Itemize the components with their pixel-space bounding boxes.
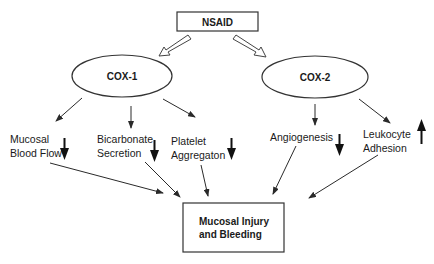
cox1-node: COX-1 <box>72 55 172 97</box>
arrow-cox2-to-leukocyte <box>359 99 390 123</box>
effect-bicarbonate-secretion: Bicarbonate Secretion <box>97 133 159 162</box>
outcome-node: Mucosal Injury and Bleeding <box>183 203 284 252</box>
up-arrow-icon <box>417 119 426 144</box>
effect-label-line1: Bicarbonate <box>97 133 153 145</box>
outcome-box <box>183 203 284 252</box>
effect-label-line2: Blood Flow <box>10 147 62 159</box>
outcome-label-line2: and Bleeding <box>199 229 262 240</box>
down-arrow-icon <box>335 134 344 156</box>
hollow-arrow-left-icon <box>159 35 191 56</box>
arrow-platelet-to-outcome <box>201 165 208 196</box>
effect-label-line1: Angiogenesis <box>270 131 333 143</box>
down-arrow-icon <box>227 138 236 160</box>
cox2-node: COX-2 <box>262 56 368 98</box>
nsaid-label: NSAID <box>202 17 233 28</box>
nsaid-mechanism-diagram: NSAID COX-1 COX-2 Mucosal Blood Flow Bic… <box>0 0 434 264</box>
nsaid-node: NSAID <box>177 12 258 31</box>
cox1-label: COX-1 <box>107 71 138 82</box>
cox2-label: COX-2 <box>300 72 331 83</box>
effect-platelet-aggregation: Platelet Aggregaton <box>171 135 236 161</box>
effect-label-line1: Platelet <box>171 135 206 147</box>
arrow-leukocyte-to-outcome <box>309 155 378 198</box>
effect-label-line2: Adhesion <box>363 142 407 154</box>
arrow-blood-flow-to-outcome <box>50 163 163 193</box>
effect-mucosal-blood-flow: Mucosal Blood Flow <box>10 133 69 160</box>
arrow-cox1-to-platelet <box>163 99 195 117</box>
arrow-angiogenesis-to-outcome <box>273 146 296 194</box>
hollow-arrow-to-cox2 <box>233 35 266 57</box>
arrow-bicarbonate-to-outcome <box>145 162 180 197</box>
effect-angiogenesis: Angiogenesis <box>270 131 344 156</box>
hollow-arrow-to-cox1 <box>159 35 191 56</box>
arrow-cox1-to-blood-flow <box>56 98 82 121</box>
effect-label-line2: Aggregaton <box>171 149 225 161</box>
outcome-label-line1: Mucosal Injury <box>199 216 269 227</box>
effect-label-line1: Leukocyte <box>363 128 411 140</box>
effect-label-line1: Mucosal <box>10 133 49 145</box>
effect-leukocyte-adhesion: Leukocyte Adhesion <box>363 119 426 154</box>
hollow-arrow-right-icon <box>233 35 266 57</box>
effect-label-line2: Secretion <box>97 147 142 159</box>
